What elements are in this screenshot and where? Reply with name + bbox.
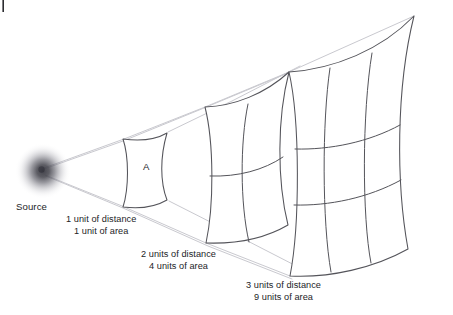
surface-2-outline (205, 72, 289, 243)
area-label: A (143, 161, 149, 172)
source-label: Source (16, 201, 47, 212)
caption-surface-2-line-2: 4 units of area (141, 261, 216, 273)
surface-2-units (205, 72, 289, 243)
caption-surface-3: 3 units of distance 9 units of area (246, 280, 321, 303)
point-source-glow-icon (14, 142, 72, 200)
caption-surface-1-line-2: 1 unit of area (66, 226, 136, 238)
caption-surface-2: 2 units of distance 4 units of area (141, 249, 216, 272)
caption-surface-2-line-1: 2 units of distance (141, 249, 216, 261)
caption-surface-1-line-1: 1 unit of distance (66, 214, 136, 226)
surface-3-units (289, 16, 414, 276)
inverse-square-law-figure: Source A 1 unit of distance 1 unit of ar… (0, 0, 453, 315)
caption-surface-1: 1 unit of distance 1 unit of area (66, 214, 136, 237)
surface-3-outline (289, 16, 414, 276)
caption-surface-3-line-2: 9 units of area (246, 292, 321, 304)
caption-surface-3-line-1: 3 units of distance (246, 280, 321, 292)
